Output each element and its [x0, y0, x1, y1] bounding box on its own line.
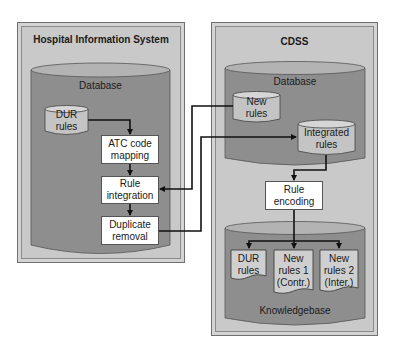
integrated-line1: Integrated	[304, 127, 349, 138]
kb-new2-line3: (Inter.)	[325, 277, 354, 288]
duplicate-removal-box: Duplicateremoval	[101, 216, 159, 245]
kb-new1-line3: (Contr.)	[277, 277, 310, 288]
kb-new-rules-2-label: New rules 2 (Inter.)	[320, 253, 358, 289]
kb-dur-rules-label: DUR rules	[231, 253, 266, 277]
integration-line1: Rule	[120, 178, 141, 189]
new-rules-node: Newrules	[233, 95, 280, 121]
rule-integration-box: Ruleintegration	[101, 176, 159, 204]
atc-code-mapping-box: ATC codemapping	[101, 135, 159, 164]
cdss-database-label: Database	[225, 76, 365, 88]
encoding-line2: encoding	[274, 196, 315, 207]
encoding-line1: Rule	[284, 184, 305, 195]
his-database-label: Database	[31, 80, 170, 92]
dur-rules-node: DURrules	[45, 108, 88, 134]
kb-new2-line1: New	[329, 253, 349, 264]
integration-line2: integration	[107, 190, 154, 201]
atc-line1: ATC code	[108, 138, 152, 149]
duplicate-line2: removal	[112, 231, 148, 242]
kb-new2-line2: rules 2	[324, 265, 354, 276]
new-rules-line2: rules	[246, 108, 268, 119]
kb-new1-line1: New	[283, 253, 303, 264]
dur-rules-line1: DUR	[56, 109, 78, 120]
dur-rules-line2: rules	[56, 121, 78, 132]
duplicate-line1: Duplicate	[109, 219, 151, 230]
integrated-rules-node: Integratedrules	[298, 125, 355, 153]
kb-dur-line1: DUR	[238, 253, 260, 264]
kb-new1-line2: rules 1	[278, 265, 308, 276]
atc-line2: mapping	[111, 150, 149, 161]
integrated-line2: rules	[316, 139, 338, 150]
rule-encoding-box: Ruleencoding	[265, 181, 323, 210]
new-rules-line1: New	[246, 96, 266, 107]
kb-dur-line2: rules	[238, 265, 260, 276]
diagram-shapes	[0, 0, 393, 350]
kb-new-rules-1-label: New rules 1 (Contr.)	[274, 253, 313, 289]
knowledgebase-label: Knowledgebase	[225, 305, 365, 317]
